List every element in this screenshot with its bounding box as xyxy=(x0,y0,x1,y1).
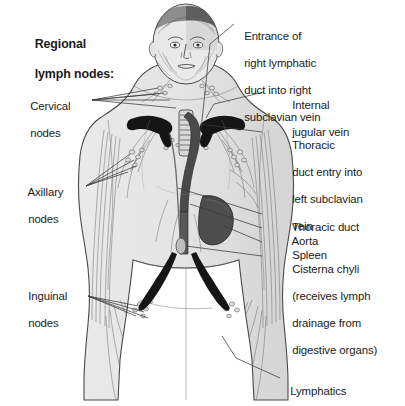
label-cisterna-chyli: Cisterna chyli (receives lymph drainage … xyxy=(286,249,377,358)
label-lymphatics-text: Lymphatics xyxy=(290,385,346,397)
label-axillary-nodes-line-1: Axillary xyxy=(28,186,64,198)
label-thoracic-duct-entry-line-2: duct entry into xyxy=(292,166,362,178)
label-cervical-nodes-line-2: nodes xyxy=(30,127,61,139)
page-title: Regional lymph nodes: xyxy=(28,22,114,82)
label-cisterna-chyli-line-3: drainage from xyxy=(292,317,361,329)
label-thoracic-duct-entry-line-1: Thoracic xyxy=(292,139,335,151)
label-inguinal-nodes-line-1: Inguinal xyxy=(28,290,67,302)
label-inguinal-nodes: Inguinal nodes xyxy=(22,276,67,330)
label-lymphatics: Lymphatics xyxy=(284,371,346,398)
label-internal-jugular-vein-line-1: Internal xyxy=(292,99,329,111)
label-cisterna-chyli-line-1: Cisterna chyli xyxy=(292,263,359,275)
label-cisterna-chyli-line-2: (receives lymph xyxy=(292,290,370,302)
label-right-lymphatic-duct-line-2: right lymphatic xyxy=(244,57,316,69)
label-right-lymphatic-duct-line-1: Entrance of xyxy=(244,30,301,42)
label-cisterna-chyli-line-4: digestive organs) xyxy=(292,344,377,356)
label-inguinal-nodes-line-2: nodes xyxy=(28,317,59,329)
label-thoracic-duct-entry-line-3: left subclavian xyxy=(292,193,363,205)
title-line-2: lymph nodes: xyxy=(35,67,114,81)
label-axillary-nodes-line-2: nodes xyxy=(28,213,59,225)
label-cervical-nodes-line-1: Cervical xyxy=(30,100,70,112)
label-axillary-nodes: Axillary nodes xyxy=(22,172,63,226)
title-line-1: Regional xyxy=(35,37,87,51)
cisterna-chyli xyxy=(176,238,186,254)
label-cervical-nodes: Cervical nodes xyxy=(24,86,70,140)
